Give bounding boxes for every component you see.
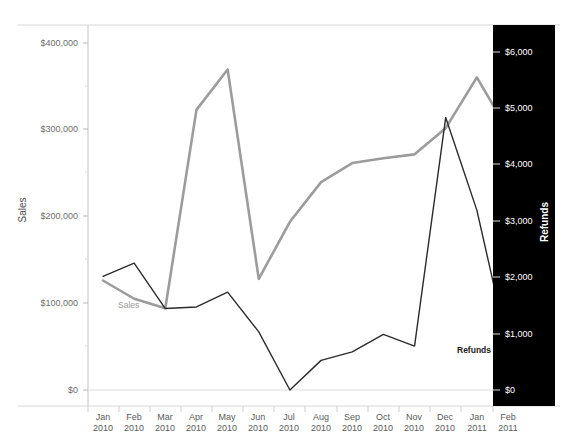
right-tick-label-1000: $1,000 — [505, 329, 533, 339]
x-label-year-3: 2010 — [186, 423, 206, 433]
x-label-year-12: 2011 — [467, 423, 486, 433]
x-label-month-7: Aug — [313, 412, 329, 422]
x-label-year-9: 2010 — [373, 423, 393, 433]
x-label-year-8: 2010 — [342, 423, 362, 433]
x-label-year-13: 2011 — [498, 423, 517, 433]
x-axis-category-labels: Jan 2010 Feb 2010 Mar 2010 Apr 2010 May … — [93, 412, 518, 433]
left-tick-label-0: $0 — [68, 385, 78, 395]
x-label-year-10: 2010 — [404, 423, 424, 433]
x-label-month-4: May — [218, 412, 236, 422]
x-label-year-1: 2010 — [124, 423, 144, 433]
plot-area-background — [88, 25, 493, 390]
series-annotation-refunds: Refunds — [457, 345, 491, 355]
x-label-month-13: Feb — [500, 412, 516, 422]
x-label-month-0: Jan — [96, 412, 111, 422]
x-label-year-11: 2010 — [435, 423, 455, 433]
left-tick-label-300k: $300,000 — [40, 124, 78, 134]
x-label-year-4: 2010 — [217, 423, 237, 433]
left-tick-label-200k: $200,000 — [40, 211, 78, 221]
right-tick-label-4000: $4,000 — [505, 159, 533, 169]
right-tick-label-5000: $5,000 — [505, 103, 533, 113]
x-label-year-7: 2010 — [311, 423, 331, 433]
x-label-month-12: Jan — [470, 412, 485, 422]
dual-axis-line-chart: $400,000 $300,000 $200,000 $100,000 $0 S… — [0, 0, 571, 444]
x-label-year-0: 2010 — [93, 423, 113, 433]
right-tick-label-2000: $2,000 — [505, 272, 533, 282]
x-label-month-6: Jul — [283, 412, 295, 422]
x-label-month-9: Oct — [376, 412, 391, 422]
left-axis-major-ticks — [83, 43, 88, 390]
x-label-year-2: 2010 — [155, 423, 175, 433]
right-tick-label-3000: $3,000 — [505, 216, 533, 226]
x-label-month-2: Mar — [157, 412, 173, 422]
right-axis-title: Refunds — [539, 202, 550, 242]
right-tick-label-0: $0 — [505, 385, 515, 395]
x-label-month-10: Nov — [406, 412, 423, 422]
x-label-month-5: Jun — [251, 412, 266, 422]
x-label-month-1: Feb — [126, 412, 142, 422]
x-label-year-6: 2010 — [279, 423, 299, 433]
x-label-month-3: Apr — [189, 412, 203, 422]
x-label-year-5: 2010 — [248, 423, 268, 433]
chart-canvas: $400,000 $300,000 $200,000 $100,000 $0 S… — [0, 0, 571, 444]
left-tick-label-100k: $100,000 — [40, 298, 78, 308]
x-label-month-8: Sep — [344, 412, 360, 422]
x-label-month-11: Dec — [437, 412, 454, 422]
left-tick-label-400k: $400,000 — [40, 38, 78, 48]
right-tick-label-6000: $6,000 — [505, 47, 533, 57]
left-axis-title: Sales — [17, 197, 28, 222]
series-annotation-sales: Sales — [118, 300, 139, 310]
